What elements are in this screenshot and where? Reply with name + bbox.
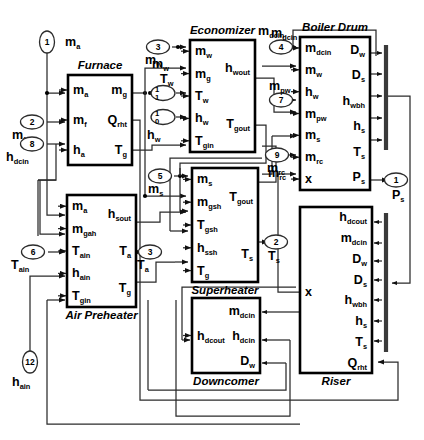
var-base: P: [392, 188, 400, 202]
block-title: Superheater: [191, 284, 259, 296]
var-base: m: [148, 182, 159, 196]
var-base: h: [12, 375, 20, 389]
var-base: h: [343, 94, 351, 108]
port-number: 1: [45, 37, 50, 47]
var-subscript: gin: [80, 296, 92, 305]
var-base: D: [352, 68, 361, 82]
port-2-T-s[interactable]: 2Ts: [265, 235, 288, 265]
var-base: P: [353, 170, 361, 184]
var-base: h: [305, 85, 313, 99]
port-label-m: mpw: [269, 79, 291, 95]
block-title: Riser: [322, 375, 351, 387]
var-base: x: [305, 172, 312, 186]
var-subscript: w: [154, 135, 161, 144]
port-label-T: Ta: [137, 258, 150, 274]
switch-sw-tw[interactable]: 11Tw: [151, 72, 175, 102]
port-12-h-ain[interactable]: 12hain: [12, 351, 38, 391]
switch-label-h: hw: [147, 128, 161, 144]
block-title: Furnace: [78, 59, 123, 71]
var-subscript: dcin: [240, 311, 256, 320]
var-base: m: [72, 222, 83, 236]
block-furnace[interactable]: FurnacemamfhamgQrhtTg: [59, 59, 132, 165]
var-subscript: w: [202, 118, 209, 127]
var-subscript: dcin: [14, 157, 30, 166]
block-boiler-drum[interactable]: Boiler DrummdcinmwhwmpwmsmrcxDwDshwbhhsT…: [291, 21, 370, 190]
var-subscript: s: [363, 321, 367, 330]
var-base: m: [73, 83, 84, 97]
var-base: h: [355, 314, 363, 328]
block-title: Air Preheater: [64, 309, 138, 321]
port-number: 7: [279, 95, 284, 105]
var-base: h: [353, 119, 361, 133]
left-label-x: x: [305, 285, 312, 299]
var-subscript: w: [162, 64, 169, 73]
var-base: h: [345, 293, 353, 307]
port-label-T: Tain: [11, 258, 30, 274]
var-base: m: [195, 44, 206, 58]
block-riser[interactable]: RiserhdcoutmdcinDwDshwbhhsTsQrhtx: [300, 207, 372, 387]
port-6-T-ain[interactable]: 6Tain: [11, 245, 45, 274]
port-label-m: ma: [65, 35, 81, 51]
var-base: m: [152, 57, 163, 71]
var-subscript: s: [363, 280, 367, 289]
switch-sw-hw[interactable]: 10hw: [147, 109, 175, 144]
block-superheater[interactable]: SuperheatermsmgshTgshhsshTgTgoutTs: [183, 168, 259, 296]
var-subscript: dcin: [352, 238, 368, 247]
block-economizer[interactable]: EconomizermwmgTwhwTginhwoutTgout: [181, 24, 256, 152]
var-subscript: w: [205, 51, 212, 60]
var-subscript: s: [400, 195, 404, 204]
var-base: m: [65, 35, 76, 49]
var-subscript: gsh: [208, 202, 222, 211]
block-air-preheater[interactable]: Air PreheatermamgahTainhainTginhsoutTaTg: [58, 195, 138, 321]
var-subscript: dcin: [316, 48, 332, 57]
block-downcomer[interactable]: DowncomerhdcoutmdcinhdcinDw: [183, 298, 260, 387]
port-7-m-pw[interactable]: 7mpw: [269, 79, 293, 107]
var-subscript: ain: [20, 382, 31, 391]
port-1-m-a[interactable]: 1ma: [40, 31, 82, 53]
var-subscript: s: [361, 126, 365, 135]
var-subscript: rht: [117, 120, 127, 129]
block-title: Downcomer: [193, 375, 259, 387]
block-title: Boiler Drum: [302, 21, 368, 33]
port-5-m-s[interactable]: 5ms: [148, 169, 172, 198]
var-subscript: gin: [203, 141, 215, 150]
var-base: h: [108, 207, 116, 221]
var-subscript: ain: [80, 251, 91, 260]
var-base: m: [305, 41, 316, 55]
port-3-T-a[interactable]: 3Ta: [137, 245, 162, 274]
diagram-canvas: FurnacemamfhamgQrhtTgAir Preheatermamgah…: [0, 0, 424, 440]
blocks-layer: FurnacemamfhamgQrhtTgAir Preheatermamgah…: [58, 21, 372, 387]
var-subscript: s: [316, 135, 320, 144]
var-base: m: [197, 195, 208, 209]
var-subscript: rc: [279, 173, 286, 182]
var-subscript: w: [360, 259, 367, 268]
var-subscript: s: [361, 75, 365, 84]
port-label-h: hdcin: [6, 150, 29, 166]
var-subscript: w: [167, 79, 174, 88]
var-subscript: w: [312, 92, 319, 101]
var-subscript: sout: [115, 214, 131, 223]
port-number: 4: [279, 42, 284, 52]
port-number: 6: [31, 247, 36, 257]
port-label-P: Ps: [392, 188, 404, 204]
var-subscript: s: [361, 152, 365, 161]
var-base: h: [197, 241, 205, 255]
var-subscript: dcin: [240, 336, 256, 345]
var-base: D: [352, 252, 361, 266]
var-subscript: g: [126, 288, 131, 297]
block-diagram-svg: FurnacemamfhamgQrhtTgAir Preheatermamgah…: [0, 0, 424, 440]
var-subscript: a: [76, 42, 81, 51]
var-base: h: [232, 329, 240, 343]
var-subscript: ssh: [205, 248, 218, 257]
var-subscript: ain: [19, 265, 30, 274]
port-number: 3: [148, 247, 153, 257]
var-subscript: w: [202, 96, 209, 105]
var-base: h: [195, 111, 203, 125]
var-subscript: ain: [80, 273, 91, 282]
var-subscript: rc: [316, 157, 323, 166]
var-base: D: [354, 273, 363, 287]
var-base: m: [305, 150, 316, 164]
port-label-m: ms: [148, 182, 163, 198]
switch-label-T: Tw: [160, 72, 174, 88]
port-1-P-s[interactable]: 1Ps: [385, 173, 408, 204]
